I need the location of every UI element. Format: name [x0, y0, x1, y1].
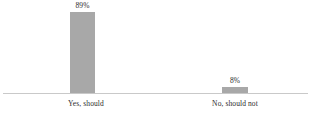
bar-value-label-no-should-not: 8% — [205, 76, 265, 85]
x-axis-line — [3, 93, 308, 94]
bar-chart: 89% 8% Yes, should No, should not — [0, 0, 311, 119]
category-label-yes-should: Yes, should — [26, 99, 146, 109]
bar-yes-should[interactable] — [70, 12, 95, 94]
category-label-no-should-not: No, should not — [175, 99, 295, 109]
plot-area: 89% 8% — [0, 0, 311, 94]
bar-value-label-yes-should: 89% — [53, 1, 113, 10]
